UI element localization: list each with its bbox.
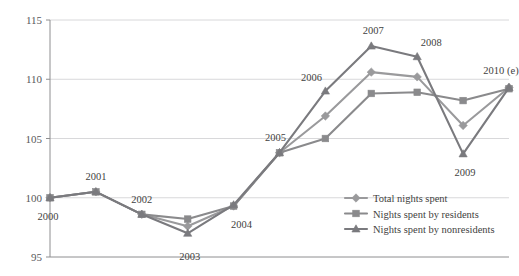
data-point-marker xyxy=(368,90,375,97)
chart-canvas: 95100105110115 2000200120022003200420052… xyxy=(0,0,519,276)
data-point-marker xyxy=(414,89,421,96)
data-point-marker xyxy=(184,216,191,223)
chart-legend: Total nights spentNights spent by reside… xyxy=(345,193,495,235)
line-chart: 95100105110115 2000200120022003200420052… xyxy=(0,0,519,276)
legend-item-label: Nights spent by residents xyxy=(373,209,479,220)
data-point-marker xyxy=(353,210,360,217)
point-label: 2005 xyxy=(265,132,286,143)
y-axis-tick-label: 115 xyxy=(26,14,43,26)
point-label: 2010 (e) xyxy=(483,65,519,77)
point-label: 2007 xyxy=(363,25,384,36)
legend-item[interactable]: Nights spent by nonresidents xyxy=(345,224,495,235)
point-label: 2008 xyxy=(421,37,442,48)
legend-item[interactable]: Nights spent by residents xyxy=(345,209,479,220)
data-point-marker xyxy=(352,194,360,202)
data-point-marker xyxy=(322,135,329,142)
point-label: 2001 xyxy=(85,171,106,182)
point-label: 2004 xyxy=(231,219,253,230)
legend-item-label: Nights spent by nonresidents xyxy=(373,224,495,235)
y-axis-tick-label: 95 xyxy=(31,251,43,263)
point-label: 2009 xyxy=(455,167,476,178)
point-label: 2006 xyxy=(301,72,322,83)
point-label: 2002 xyxy=(131,194,152,205)
data-point-marker xyxy=(460,97,467,104)
point-label: 2003 xyxy=(179,251,200,262)
y-axis-tick-label: 105 xyxy=(26,133,43,145)
data-point-marker xyxy=(367,42,375,49)
point-label: 2000 xyxy=(38,211,59,222)
y-axis-tick-label: 110 xyxy=(26,73,43,85)
y-axis-tick-label: 100 xyxy=(26,192,43,204)
legend-item[interactable]: Total nights spent xyxy=(345,193,448,204)
y-tick-labels-group: 95100105110115 xyxy=(26,14,43,263)
legend-item-label: Total nights spent xyxy=(373,193,448,204)
